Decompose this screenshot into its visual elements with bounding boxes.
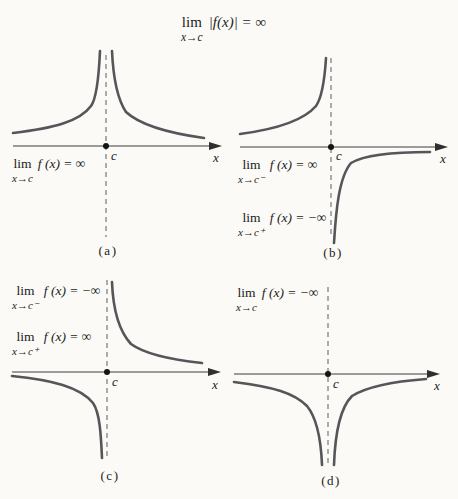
lim-stack: lim x→c: [236, 286, 257, 313]
lim-expression: f (x) = ∞: [270, 158, 318, 172]
limit-statement: lim x→c⁻ f (x) = −∞: [12, 284, 100, 311]
graph-c-caption: (c): [88, 469, 132, 483]
graph-a-caption: (a): [86, 244, 130, 258]
curve-right-branch: [334, 379, 426, 465]
x-axis-label: x: [434, 379, 440, 392]
figure-title: lim x→c |f(x)| = ∞: [181, 14, 266, 43]
point-c-label: c: [111, 149, 117, 162]
curve-left-branch: [13, 51, 100, 133]
lim-expression: f (x) = −∞: [270, 211, 327, 225]
lim-subscript: x→c⁻: [238, 174, 265, 185]
x-axis-arrowhead-icon: [209, 142, 222, 150]
graph-d-caption: (d): [309, 474, 353, 488]
limit-statement: lim x→c f (x) = ∞: [12, 157, 85, 184]
graph-a: c x lim x→c f (x) = ∞ (a): [0, 45, 230, 258]
graph-c: c x lim x→c⁻ f (x) = −∞ lim x→c⁺ f (x) =…: [0, 258, 230, 499]
lim-subscript: x→c⁻: [12, 300, 39, 311]
point-c-dot: [328, 144, 334, 150]
lim-word: lim: [13, 157, 31, 171]
lim-subscript: x→c⁺: [238, 227, 265, 238]
x-axis-label: x: [213, 151, 219, 164]
curve-left-branch: [234, 382, 322, 465]
x-axis-arrowhead-icon: [435, 143, 448, 151]
lim-expression: f (x) = −∞: [262, 286, 319, 300]
point-c-label: c: [112, 375, 118, 388]
title-expression: |f(x)| = ∞: [209, 14, 266, 30]
lim-word: lim: [242, 158, 260, 172]
lim-word: lim: [16, 330, 34, 344]
lim-stack: lim x→c⁺: [12, 330, 39, 357]
x-axis-label: x: [212, 378, 218, 391]
graph-d: c x lim x→c f (x) = −∞ (d): [228, 258, 458, 499]
limit-statement: lim x→c⁺ f (x) = ∞: [12, 330, 91, 357]
title-lim-subscript: x→c: [181, 32, 203, 43]
lim-stack: lim x→c: [12, 157, 33, 184]
lim-stack: lim x→c⁻: [12, 284, 39, 311]
graph-b: c x lim x→c⁻ f (x) = ∞ lim x→c⁺ f (x) = …: [228, 45, 458, 258]
lim-word: lim: [242, 211, 260, 225]
curve-left-branch: [12, 376, 102, 458]
x-axis-arrowhead-icon: [427, 370, 440, 378]
point-c-dot: [325, 371, 331, 377]
point-c-dot: [103, 143, 109, 149]
x-axis-label: x: [440, 152, 446, 165]
lim-subscript: x→c: [12, 173, 33, 184]
curve-right-branch: [112, 282, 202, 363]
limit-statement: lim x→c f (x) = −∞: [236, 286, 318, 313]
limit-statement: lim x→c⁺ f (x) = −∞: [238, 211, 326, 238]
curve-right-branch: [334, 152, 430, 243]
lim-subscript: x→c⁺: [12, 346, 39, 357]
lim-expression: f (x) = ∞: [44, 330, 92, 344]
curve-left-branch: [240, 58, 326, 134]
point-c-label: c: [333, 377, 339, 390]
lim-stack: lim x→c⁺: [238, 211, 265, 238]
lim-expression: f (x) = ∞: [38, 157, 86, 171]
figure-page: lim x→c |f(x)| = ∞ c x lim x→c f (x) = ∞…: [0, 0, 458, 499]
limit-statement: lim x→c⁻ f (x) = ∞: [238, 158, 317, 185]
point-c-label: c: [336, 149, 342, 162]
lim-expression: f (x) = −∞: [44, 284, 101, 298]
title-lim: lim: [182, 14, 202, 30]
lim-subscript: x→c: [236, 302, 257, 313]
curve-right-branch: [112, 51, 204, 138]
title-lim-stack: lim x→c: [181, 14, 203, 43]
lim-stack: lim x→c⁻: [238, 158, 265, 185]
lim-word: lim: [16, 284, 34, 298]
x-axis-arrowhead-icon: [208, 368, 221, 376]
lim-word: lim: [237, 286, 255, 300]
point-c-dot: [104, 369, 110, 375]
